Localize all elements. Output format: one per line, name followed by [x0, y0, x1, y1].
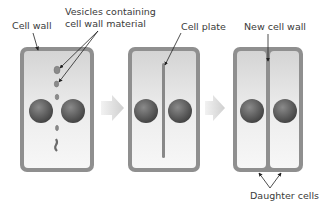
nucleus-right [168, 99, 192, 123]
nucleus-right [273, 99, 297, 123]
pointer-daughter-left [259, 173, 270, 188]
label-cell-wall: Cell wall [12, 20, 52, 31]
stage-2-cell [128, 47, 200, 172]
label-daughter-cells: Daughter cells [250, 190, 319, 201]
label-new-cell-wall: New cell wall [244, 21, 306, 32]
cytokinesis-diagram: Cell wall Vesicles containing cell wall … [0, 0, 326, 201]
nucleus-right [61, 99, 85, 123]
stage-arrow-1 [101, 95, 124, 121]
stage-3-cells [233, 47, 303, 172]
nucleus-left [29, 99, 53, 123]
label-vesicles-2: cell wall material [65, 18, 146, 29]
label-vesicles-1: Vesicles containing [65, 6, 156, 17]
stage-arrow-2 [205, 95, 225, 121]
stage-1-cell [20, 47, 94, 172]
pointer-daughter-right [270, 173, 281, 188]
nucleus-left [240, 99, 264, 123]
cell-plate [162, 63, 165, 158]
label-cell-plate: Cell plate [181, 21, 226, 32]
nucleus-left [134, 99, 158, 123]
